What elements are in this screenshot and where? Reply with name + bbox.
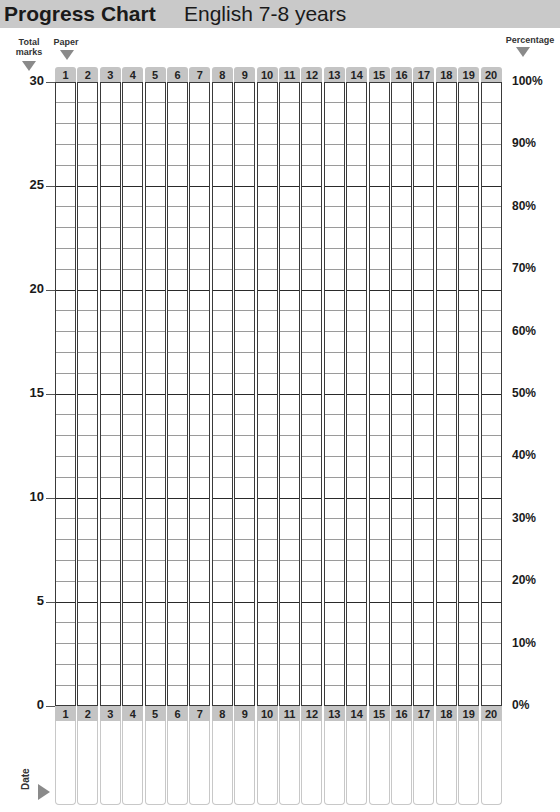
grid-line (414, 102, 433, 103)
date-input-17[interactable] (413, 721, 434, 805)
grid-line (235, 144, 254, 145)
paper-column-9[interactable] (234, 82, 255, 706)
date-input-9[interactable] (234, 721, 255, 805)
grid-line (146, 165, 165, 166)
grid-line (280, 352, 299, 353)
paper-column-6[interactable] (167, 82, 188, 706)
grid-line (459, 498, 478, 499)
date-input-14[interactable] (346, 721, 367, 805)
grid-line (302, 331, 321, 332)
grid-line (78, 622, 97, 623)
date-input-4[interactable] (122, 721, 143, 805)
grid-line (101, 310, 120, 311)
grid-line (146, 310, 165, 311)
date-input-11[interactable] (279, 721, 300, 805)
grid-line (325, 248, 344, 249)
grid-line (78, 498, 97, 499)
grid-line (56, 290, 75, 291)
grid-line (482, 602, 501, 603)
y-axis-label-0: 0 (0, 697, 44, 712)
date-input-15[interactable] (369, 721, 390, 805)
grid-line (213, 581, 232, 582)
grid-line (370, 643, 389, 644)
paper-column-10[interactable] (257, 82, 278, 706)
paper-column-3[interactable] (100, 82, 121, 706)
grid-line (78, 456, 97, 457)
date-input-6[interactable] (167, 721, 188, 805)
grid-line (347, 622, 366, 623)
paper-column-20[interactable] (481, 82, 502, 706)
grid-line (56, 664, 75, 665)
paper-column-12[interactable] (301, 82, 322, 706)
grid-line (370, 435, 389, 436)
paper-footer-16: 16 (391, 706, 412, 721)
paper-column-14[interactable] (346, 82, 367, 706)
paper-header-10: 10 (257, 67, 278, 82)
grid-line (302, 102, 321, 103)
grid-line (56, 518, 75, 519)
grid-line (190, 643, 209, 644)
date-input-5[interactable] (145, 721, 166, 805)
paper-column-16[interactable] (391, 82, 412, 706)
grid-line (437, 331, 456, 332)
grid-line (302, 435, 321, 436)
paper-column-4[interactable] (122, 82, 143, 706)
grid-line (235, 102, 254, 103)
grid-line (280, 414, 299, 415)
date-arrow-icon (38, 784, 50, 800)
grid-line (213, 414, 232, 415)
paper-column-2[interactable] (77, 82, 98, 706)
date-input-10[interactable] (257, 721, 278, 805)
grid-line (437, 290, 456, 291)
date-input-1[interactable] (55, 721, 76, 805)
paper-footer-8: 8 (212, 706, 233, 721)
grid-line (168, 248, 187, 249)
grid-line (235, 227, 254, 228)
date-input-20[interactable] (481, 721, 502, 805)
grid-line (56, 373, 75, 374)
grid-line (213, 456, 232, 457)
date-input-18[interactable] (436, 721, 457, 805)
grid-line (235, 435, 254, 436)
grid-line (146, 477, 165, 478)
grid-line (190, 685, 209, 686)
paper-column-13[interactable] (324, 82, 345, 706)
grid-line (302, 123, 321, 124)
grid-line (235, 331, 254, 332)
date-input-13[interactable] (324, 721, 345, 805)
grid-line (280, 581, 299, 582)
grid-line (392, 560, 411, 561)
date-input-16[interactable] (391, 721, 412, 805)
date-input-8[interactable] (212, 721, 233, 805)
grid-line (235, 290, 254, 291)
grid-line (325, 290, 344, 291)
paper-column-1[interactable] (55, 82, 76, 706)
grid-line (56, 269, 75, 270)
grid-line (146, 394, 165, 395)
paper-column-8[interactable] (212, 82, 233, 706)
paper-column-11[interactable] (279, 82, 300, 706)
paper-column-19[interactable] (458, 82, 479, 706)
grid-line (347, 144, 366, 145)
grid-line (190, 248, 209, 249)
date-input-2[interactable] (77, 721, 98, 805)
date-input-3[interactable] (100, 721, 121, 805)
grid-line (437, 539, 456, 540)
grid-line (482, 352, 501, 353)
paper-column-5[interactable] (145, 82, 166, 706)
grid-line (146, 602, 165, 603)
grid-line (437, 602, 456, 603)
date-input-19[interactable] (458, 721, 479, 805)
date-input-12[interactable] (301, 721, 322, 805)
grid-line (213, 310, 232, 311)
grid-line (370, 269, 389, 270)
date-input-7[interactable] (189, 721, 210, 805)
paper-column-7[interactable] (189, 82, 210, 706)
paper-column-18[interactable] (436, 82, 457, 706)
grid-line (482, 518, 501, 519)
grid-line (437, 685, 456, 686)
grid-line (414, 560, 433, 561)
paper-column-17[interactable] (413, 82, 434, 706)
paper-column-15[interactable] (369, 82, 390, 706)
grid-line (414, 414, 433, 415)
